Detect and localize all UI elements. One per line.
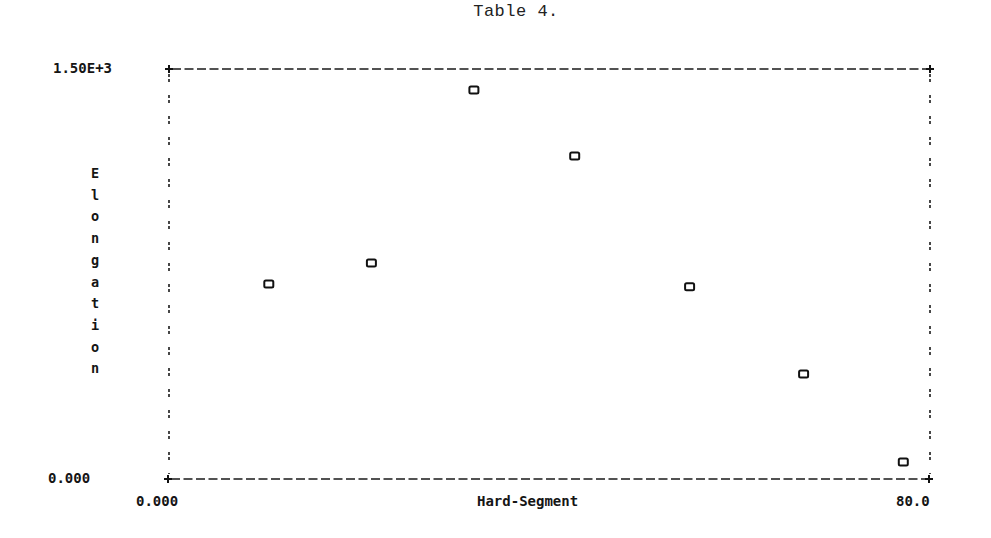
data-point-marker xyxy=(469,87,478,94)
data-point-marker xyxy=(367,260,376,267)
plot-area xyxy=(0,0,991,538)
data-point-marker xyxy=(685,283,694,290)
data-points xyxy=(264,87,908,466)
frame-corner-marks xyxy=(164,65,934,483)
plot-frame xyxy=(169,69,930,479)
data-point-marker xyxy=(899,459,908,466)
data-point-marker xyxy=(570,152,579,159)
data-point-marker xyxy=(264,281,273,288)
data-point-marker xyxy=(799,371,808,378)
